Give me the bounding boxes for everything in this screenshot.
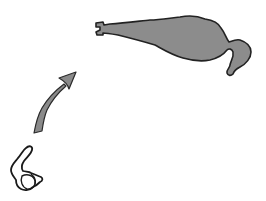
large-form-shape [96, 16, 251, 75]
diagram-canvas [0, 0, 266, 201]
diagram-svg [0, 0, 266, 201]
arrow-shaft [34, 84, 66, 133]
small-form-shape [11, 146, 42, 190]
